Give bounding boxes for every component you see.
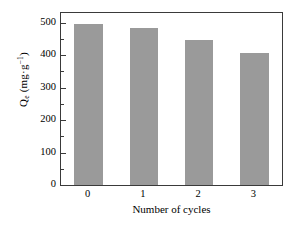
y-axis-tick xyxy=(61,88,66,89)
x-axis-tick-label: 1 xyxy=(131,188,155,200)
y-axis-minor-tick xyxy=(61,169,64,170)
y-axis-minor-tick xyxy=(61,71,64,72)
y-axis-tick xyxy=(61,185,66,186)
bar xyxy=(240,53,269,185)
y-axis-title-units: (mg·g xyxy=(17,64,29,95)
y-axis-tick xyxy=(61,153,66,154)
y-axis-tick-label: 200 xyxy=(30,114,56,125)
y-axis-tick-label: 500 xyxy=(30,17,56,28)
plot-area xyxy=(60,12,283,186)
y-axis-tick xyxy=(61,23,66,24)
y-axis-tick xyxy=(61,120,66,121)
y-axis-title-superscript: −1 xyxy=(16,56,25,64)
x-axis-tick-label: 0 xyxy=(76,188,100,200)
y-axis-title-paren: ) xyxy=(17,52,29,56)
y-axis-title-symbol: Q xyxy=(17,99,29,107)
y-axis-tick-label: 400 xyxy=(30,49,56,60)
y-axis-minor-tick xyxy=(61,136,64,137)
chart-figure: Qe (mg·g−1) 0100200300400500 0123 Number… xyxy=(0,0,301,226)
x-axis-tick-label: 2 xyxy=(186,188,210,200)
x-axis-tick-label: 3 xyxy=(241,188,265,200)
bar xyxy=(74,24,103,185)
bar xyxy=(185,40,214,185)
y-axis-minor-tick xyxy=(61,39,64,40)
bar xyxy=(130,28,159,185)
y-axis-tick xyxy=(61,55,66,56)
y-axis-tick-label: 300 xyxy=(30,82,56,93)
x-axis-title: Number of cycles xyxy=(60,203,283,215)
y-axis-tick-labels: 0100200300400500 xyxy=(28,0,56,226)
x-axis-tick-labels: 0123 xyxy=(60,188,283,204)
y-axis-tick-label: 100 xyxy=(30,147,56,158)
y-axis-tick-label: 0 xyxy=(30,179,56,190)
y-axis-minor-tick xyxy=(61,104,64,105)
